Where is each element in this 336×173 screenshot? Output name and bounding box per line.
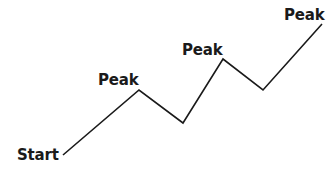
peak-label-1: Peak [98,73,138,88]
peak-label-3: Peak [284,8,324,23]
zigzag-progress-diagram: Start Peak Peak Peak [0,0,336,173]
start-label: Start [17,148,59,163]
peak-label-2: Peak [182,43,222,58]
